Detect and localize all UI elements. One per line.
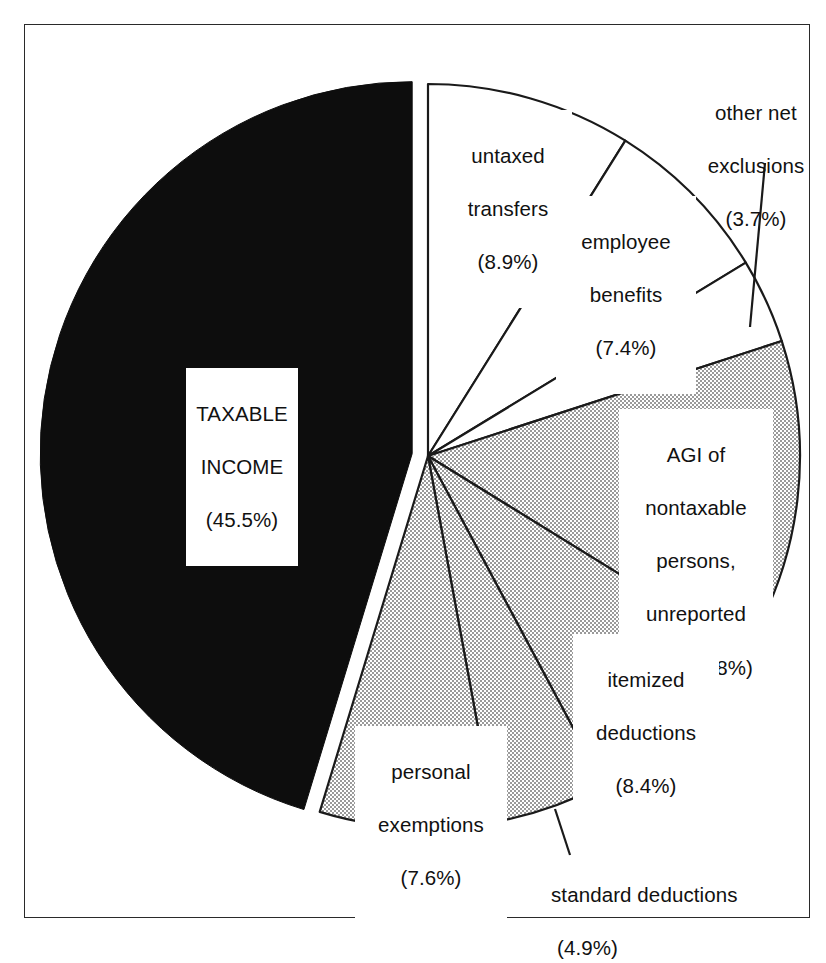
slice-label-itemized-deductions: itemized deductions (8.4%) [573, 634, 719, 832]
agi-nontaxable-line3: persons, [628, 548, 764, 575]
itemized-deductions-line1: itemized [582, 667, 710, 694]
slice-label-untaxed-transfers: untaxed transfers (8.9%) [444, 110, 572, 308]
slice-label-other-net-exclusions: other net exclusions (3.7%) [690, 73, 822, 259]
personal-exemptions-line2: exemptions [364, 812, 498, 839]
employee-benefits-line3: (7.4%) [565, 335, 687, 362]
agi-nontaxable-line1: AGI of [628, 442, 764, 469]
standard-deductions-line1: standard deductions [551, 882, 801, 909]
slice-label-employee-benefits: employee benefits (7.4%) [556, 196, 696, 394]
employee-benefits-line2: benefits [565, 282, 687, 309]
slice-label-standard-deductions: standard deductions (4.9%) [551, 855, 801, 963]
untaxed-transfers-line3: (8.9%) [453, 249, 563, 276]
untaxed-transfers-line1: untaxed [453, 143, 563, 170]
itemized-deductions-line3: (8.4%) [582, 773, 710, 800]
other-net-exclusions-line2: exclusions [690, 153, 822, 180]
agi-nontaxable-line2: nontaxable [628, 495, 764, 522]
slice-label-personal-exemptions: personal exemptions (7.6%) [355, 726, 507, 924]
other-net-exclusions-line1: other net [690, 100, 822, 127]
standard-deductions-line2: (4.9%) [551, 935, 801, 962]
agi-nontaxable-line4: unreported [628, 601, 764, 628]
untaxed-transfers-line2: transfers [453, 196, 563, 223]
itemized-deductions-line2: deductions [582, 720, 710, 747]
personal-exemptions-line3: (7.6%) [364, 865, 498, 892]
taxable-income-line1: TAXABLE [195, 401, 289, 428]
taxable-income-line2: INCOME [195, 454, 289, 481]
other-net-exclusions-line3: (3.7%) [690, 206, 822, 233]
personal-exemptions-line1: personal [364, 759, 498, 786]
employee-benefits-line1: employee [565, 229, 687, 256]
slice-label-taxable-income: TAXABLE INCOME (45.5%) [186, 368, 298, 566]
taxable-income-line3: (45.5%) [195, 507, 289, 534]
